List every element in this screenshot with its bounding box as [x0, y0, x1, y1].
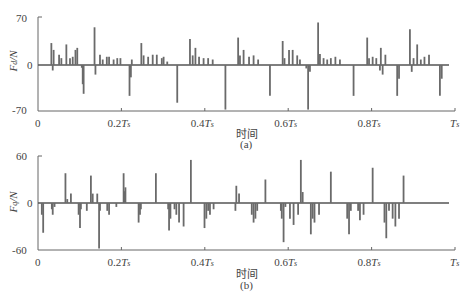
y-tick-max-a: 70 — [16, 12, 27, 24]
y-tick-max-b: 60 — [16, 150, 27, 162]
x-tick-label: 0 — [35, 117, 41, 129]
x-tick-label: Ts — [450, 117, 459, 129]
y-tick-zero-a: 0 — [27, 59, 33, 71]
chart-panel-a: Fd/N 70 0 -70 00.2Ts0.4Ts0.6Ts0.8TsTs 时间… — [0, 0, 471, 150]
x-tick-label: 0.4Ts — [191, 117, 214, 129]
x-tick-label: 0.2Ts — [107, 256, 130, 268]
y-tick-min-a: -70 — [12, 104, 27, 116]
x-tick-label: 0.6Ts — [274, 117, 297, 129]
y-tick-zero-b: 0 — [27, 197, 33, 209]
x-tick-label: 0.8Ts — [358, 117, 381, 129]
caption-a: (a) — [240, 138, 252, 150]
x-tick-label: 0 — [35, 256, 41, 268]
y-axis-label-b: Fq/N — [7, 191, 19, 212]
caption-b: (b) — [240, 279, 253, 291]
x-tick-label: 0.6Ts — [274, 256, 297, 268]
y-tick-min-b: -60 — [12, 244, 27, 256]
x-tick-label: 0.8Ts — [358, 256, 381, 268]
x-tick-label: Ts — [450, 256, 459, 268]
x-tick-label: 0.4Ts — [191, 256, 214, 268]
chart-panel-b: Fq/N 60 0 -60 00.2Ts0.4Ts0.6Ts0.8TsTs 时间… — [0, 150, 471, 300]
y-axis-label-a: Fd/N — [7, 50, 19, 71]
x-tick-label: 0.2Ts — [107, 117, 130, 129]
